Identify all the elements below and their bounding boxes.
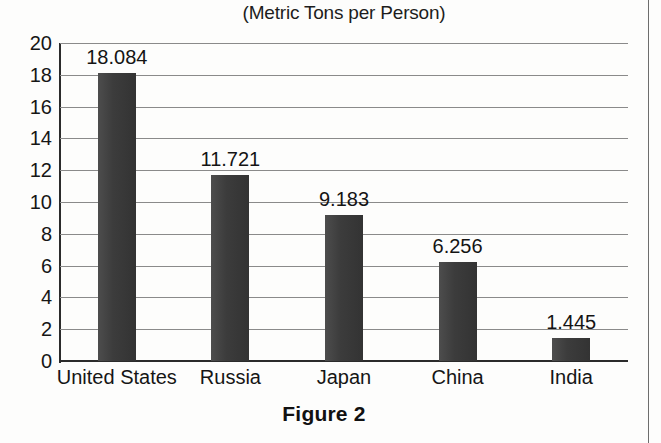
y-axis-tick-label: 6 [6, 256, 52, 276]
y-axis-tick-label: 8 [6, 224, 52, 244]
y-axis-tick-label: 18 [6, 65, 52, 85]
y-axis-tick-label: 2 [6, 319, 52, 339]
y-axis-tick-label: 12 [6, 160, 52, 180]
page-edge-border [648, 0, 649, 443]
y-axis-tick-label: 0 [6, 351, 52, 371]
bar-value-label: 11.721 [170, 149, 290, 169]
figure-page: (Metric Tons per Person) 201816141210864… [0, 0, 661, 443]
bar-value-label: 9.183 [284, 189, 404, 209]
bar-japan [325, 215, 363, 361]
bar-value-label: 1.445 [511, 312, 631, 332]
bar-russia [211, 175, 249, 361]
chart-title: (Metric Tons per Person) [60, 2, 628, 24]
bar-india [552, 338, 590, 361]
y-axis-tick-label: 16 [6, 97, 52, 117]
gridline [60, 43, 628, 44]
bar-china [439, 262, 477, 361]
gridline [60, 138, 628, 139]
y-axis-tick-label: 14 [6, 128, 52, 148]
gridline [60, 75, 628, 76]
plot-area: 18.08411.7219.1836.2561.445 [60, 43, 628, 361]
y-axis-tick-label: 10 [6, 192, 52, 212]
bar-value-label: 6.256 [398, 236, 518, 256]
bar-united-states [98, 73, 136, 361]
bar-value-label: 18.084 [57, 47, 177, 67]
gridline [60, 107, 628, 108]
y-axis-tick-labels: 20181614121086420 [0, 43, 52, 361]
figure-caption: Figure 2 [0, 402, 648, 426]
category-label: India [501, 366, 641, 388]
y-axis-tick-label: 4 [6, 287, 52, 307]
x-axis-category-labels: United StatesRussiaJapanChinaIndia [60, 366, 628, 394]
gridline [60, 170, 628, 171]
y-axis-tick-label: 20 [6, 33, 52, 53]
